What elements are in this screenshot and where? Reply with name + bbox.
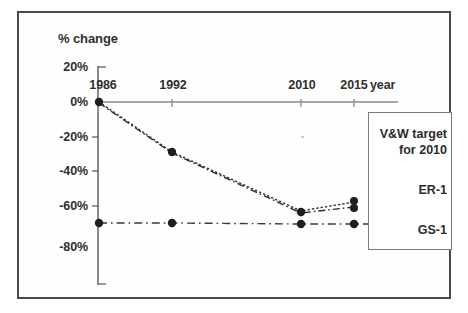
data-point-2015-gs1: [350, 220, 358, 228]
x-tick-label-1992: 1992: [151, 78, 195, 92]
legend-label-vw-target-line2: for 2010: [399, 143, 447, 157]
y-tick-label-neg60: -60%: [42, 199, 88, 213]
x-tick-label-2010: 2010: [280, 78, 324, 92]
y-tick-label-20: 20%: [42, 60, 88, 74]
data-point-2010-gs1: [297, 220, 305, 228]
y-tick-label-neg80: -80%: [42, 240, 88, 254]
scan-artifact-speck: [301, 136, 304, 138]
legend-label-gs1: GS-1: [418, 223, 447, 237]
chart-figure: % change 20% 0% -20% -40% -60% -80% 1986…: [0, 0, 468, 313]
data-point-1992-gs1: [168, 219, 176, 227]
series-line-vw-target: [99, 103, 354, 213]
series-line-er1: [99, 102, 354, 211]
data-point-2015-vw-target: [350, 204, 358, 212]
chart-legend: V&W target for 2010 ER-1 GS-1: [368, 112, 452, 250]
y-tick-label-neg20: -20%: [42, 130, 88, 144]
data-point-1992-er1: [168, 148, 176, 156]
x-axis-name: year: [370, 78, 395, 92]
y-tick-label-0: 0%: [42, 95, 88, 109]
legend-label-vw-target-line1: V&W target: [380, 127, 447, 141]
data-point-1986-er1: [95, 98, 103, 106]
data-point-2010-er1: [297, 208, 305, 216]
legend-label-er1: ER-1: [419, 183, 447, 197]
data-point-1986-gs1: [95, 219, 103, 227]
data-point-2015-er1: [350, 197, 358, 205]
axis-title: % change: [58, 31, 118, 46]
x-tick-label-1986: 1986: [81, 78, 125, 92]
y-tick-label-neg40: -40%: [42, 164, 88, 178]
